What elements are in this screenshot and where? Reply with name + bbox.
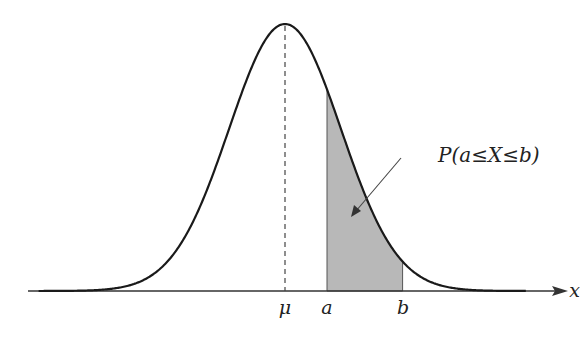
probability-annotation: P(a≤X≤b) — [437, 143, 540, 167]
tick-label-a: a — [321, 296, 332, 318]
normal-distribution-diagram: P(a≤X≤b) μ a b x — [0, 0, 587, 338]
tick-label-b: b — [397, 296, 409, 318]
axis-label-x: x — [569, 279, 580, 301]
tick-label-mean: μ — [279, 296, 291, 318]
annotation-pointer-line — [356, 158, 401, 211]
